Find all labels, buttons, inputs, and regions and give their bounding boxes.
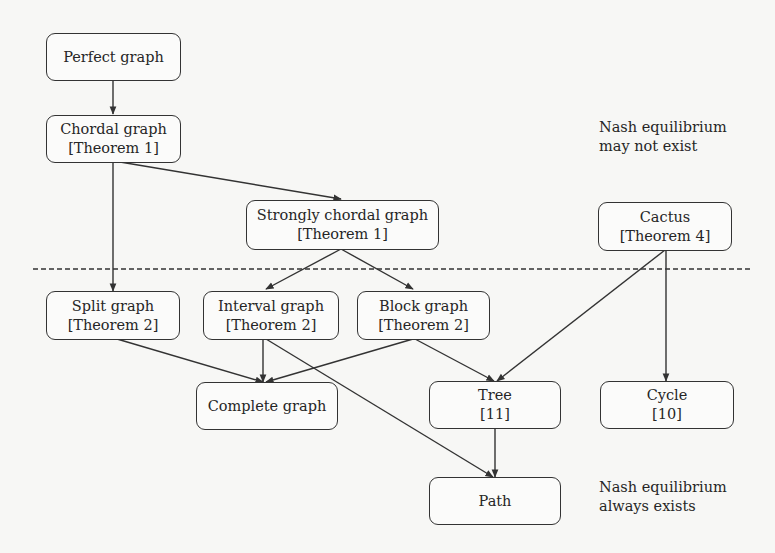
node-label: Interval graph — [218, 297, 324, 316]
node-cycle: Cycle [10] — [600, 381, 734, 429]
node-label: Block graph — [379, 297, 468, 316]
edge-block-complete — [266, 339, 413, 382]
node-ref: [Theorem 1] — [68, 139, 159, 158]
node-interval-graph: Interval graph [Theorem 2] — [203, 291, 339, 340]
node-strongly-chordal-graph: Strongly chordal graph [Theorem 1] — [246, 200, 439, 250]
annotation-line: Nash equilibrium — [599, 478, 727, 497]
annotation-line: always exists — [599, 497, 727, 516]
node-label: Cycle — [647, 386, 688, 405]
node-ref: [Theorem 2] — [226, 316, 317, 335]
node-block-graph: Block graph [Theorem 2] — [357, 291, 490, 340]
node-split-graph: Split graph [Theorem 2] — [46, 291, 180, 340]
node-ref: [Theorem 2] — [68, 316, 159, 335]
node-label: Tree — [478, 386, 512, 405]
node-ref: [11] — [480, 405, 510, 424]
node-ref: [Theorem 2] — [378, 316, 469, 335]
node-perfect-graph: Perfect graph — [46, 33, 181, 81]
node-ref: [Theorem 4] — [620, 227, 711, 246]
edge-chordal-strongly — [120, 162, 341, 199]
edge-split-complete — [117, 339, 263, 382]
node-path: Path — [429, 477, 561, 525]
annotation-line: may not exist — [599, 137, 727, 156]
node-complete-graph: Complete graph — [196, 382, 338, 430]
node-label: Cactus — [640, 208, 690, 227]
edge-block-tree — [415, 339, 494, 381]
edges-layer — [0, 0, 775, 553]
annotation-line: Nash equilibrium — [599, 118, 727, 137]
node-tree: Tree [11] — [429, 381, 561, 429]
node-label: Perfect graph — [63, 48, 164, 67]
node-ref: [10] — [652, 405, 682, 424]
annotation-always-exists: Nash equilibrium always exists — [599, 478, 727, 516]
node-ref: [Theorem 1] — [297, 225, 388, 244]
node-cactus: Cactus [Theorem 4] — [598, 202, 732, 251]
node-label: Split graph — [72, 297, 154, 316]
node-chordal-graph: Chordal graph [Theorem 1] — [46, 115, 181, 163]
node-label: Strongly chordal graph — [257, 206, 428, 225]
node-label: Complete graph — [208, 397, 327, 416]
node-label: Chordal graph — [60, 120, 167, 139]
annotation-may-not-exist: Nash equilibrium may not exist — [599, 118, 727, 156]
node-label: Path — [479, 492, 512, 511]
